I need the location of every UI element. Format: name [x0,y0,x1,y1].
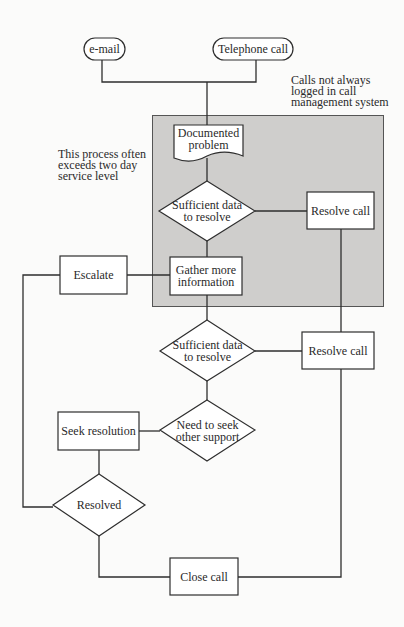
process-note: This process often exceeds two day servi… [58,149,146,182]
calls-note-line: management system [291,97,389,108]
calls-note: Calls not always logged in call manageme… [291,75,389,108]
resolve-call-2-node: Resolve call [302,332,374,369]
resolve-call-1-label: Resolve call [311,205,370,217]
decision-resolved-node: Resolved [53,495,145,515]
resolve-call-2-label: Resolve call [309,345,368,357]
resolve-call-1-node: Resolve call [307,192,374,229]
gather-info-node: Gather more information [170,257,242,295]
decision-seek-support-node: Need to seek other support [160,419,255,443]
gather-info-line: information [178,276,235,288]
escalate-node: Escalate [60,256,127,294]
documented-problem-line: problem [189,139,229,151]
seek-resolution-node: Seek resolution [58,412,139,450]
escalate-label: Escalate [74,269,114,281]
close-call-label: Close call [180,571,228,583]
decision-sufficient-2-node: Sufficient data to resolve [160,339,255,363]
email-node: e-mail [84,38,125,60]
telephone-label: Telephone call [218,43,288,55]
telephone-node: Telephone call [213,38,293,60]
process-note-line: service level [58,171,146,182]
seek-resolution-label: Seek resolution [61,425,135,437]
decision-line: to resolve [184,211,231,223]
documented-problem-node: Documented problem [174,128,243,150]
resolved-label: Resolved [77,499,122,511]
decision-sufficient-1-node: Sufficient data to resolve [159,199,255,223]
email-label: e-mail [89,43,120,55]
decision-line: other support [176,431,240,443]
decision-line: to resolve [184,351,231,363]
close-call-node: Close call [170,558,238,595]
